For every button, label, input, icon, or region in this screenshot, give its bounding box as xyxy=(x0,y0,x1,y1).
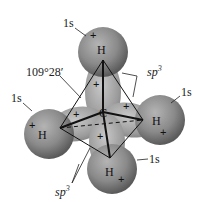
orbital-label-left: 1s xyxy=(11,91,22,105)
methane-sp3-diagram: C H H H H + + + + + + + + 1s 1s 1s 1s 10… xyxy=(0,0,206,202)
h-label-bottom: H xyxy=(105,165,114,179)
plus-sign: + xyxy=(123,100,129,112)
sphere-left xyxy=(24,109,74,159)
plus-sign: + xyxy=(29,119,35,131)
plus-sign: + xyxy=(160,126,166,138)
hybrid-label-lower: sp3 xyxy=(55,184,70,199)
plus-sign: + xyxy=(118,173,124,185)
h-label-left: H xyxy=(38,128,47,142)
plus-sign: + xyxy=(73,108,79,120)
hybrid-label-upper: sp3 xyxy=(147,64,162,79)
orbital-label-bottom: 1s xyxy=(149,152,160,166)
plus-sign: + xyxy=(97,130,103,142)
orbital-label-right: 1s xyxy=(181,85,192,99)
bond-angle-label: 109°28′ xyxy=(26,65,64,79)
center-atom-label: C xyxy=(99,106,107,120)
h-label-top: H xyxy=(97,43,106,57)
plus-sign: + xyxy=(93,78,99,90)
orbital-label-top: 1s xyxy=(63,16,74,30)
plus-sign: + xyxy=(90,29,96,41)
